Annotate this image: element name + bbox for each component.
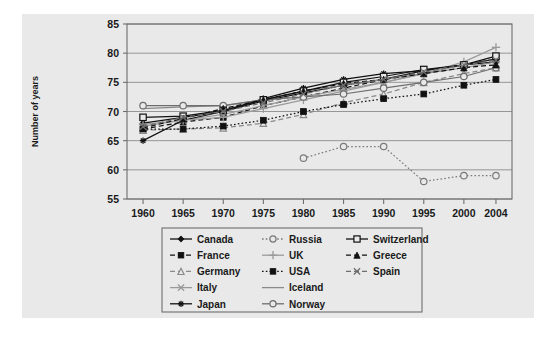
xtick-label-2000: 2000 bbox=[452, 207, 476, 219]
legend-label-usa: USA bbox=[289, 266, 310, 277]
legend-label-france: France bbox=[197, 250, 230, 261]
marker-filled-square bbox=[260, 117, 266, 123]
legend-label-japan: Japan bbox=[197, 299, 226, 310]
marker-filled-square bbox=[270, 269, 276, 275]
marker-filled-square bbox=[178, 252, 184, 258]
marker-open-square bbox=[140, 114, 146, 120]
marker-open-circle bbox=[340, 91, 346, 97]
marker-open-circle bbox=[340, 143, 346, 149]
marker-open-circle bbox=[140, 102, 146, 108]
legend-label-russia: Russia bbox=[289, 234, 322, 245]
legend-label-canada: Canada bbox=[197, 234, 234, 245]
ytick-label-80: 80 bbox=[107, 47, 119, 59]
xtick-label-1990: 1990 bbox=[372, 207, 396, 219]
ytick-label-60: 60 bbox=[107, 164, 119, 176]
legend-label-switzerland: Switzerland bbox=[373, 234, 429, 245]
chart-figure: 8580757065605519601965197019751980198519… bbox=[22, 14, 534, 318]
life-expectancy-line-chart: 8580757065605519601965197019751980198519… bbox=[22, 14, 534, 318]
xtick-label-1985: 1985 bbox=[332, 207, 356, 219]
marker-filled-square bbox=[461, 82, 467, 88]
ytick-label-55: 55 bbox=[107, 193, 119, 205]
ytick-label-85: 85 bbox=[107, 18, 119, 30]
marker-open-circle bbox=[380, 85, 386, 91]
xtick-label-1995: 1995 bbox=[412, 207, 436, 219]
marker-filled-square bbox=[220, 123, 226, 129]
xtick-label-1980: 1980 bbox=[292, 207, 316, 219]
xtick-label-1970: 1970 bbox=[212, 207, 236, 219]
legend-label-germany: Germany bbox=[197, 266, 241, 277]
marker-open-circle bbox=[421, 79, 427, 85]
marker-filled-square bbox=[180, 126, 186, 132]
ytick-label-65: 65 bbox=[107, 135, 119, 147]
xtick-label-2004: 2004 bbox=[484, 207, 508, 219]
marker-open-circle bbox=[493, 172, 499, 178]
legend-label-italy: Italy bbox=[197, 282, 217, 293]
y-axis-title: Number of years bbox=[30, 76, 40, 147]
marker-open-circle bbox=[270, 301, 276, 307]
marker-filled-square bbox=[301, 109, 307, 115]
marker-asterisk bbox=[178, 301, 184, 307]
legend-label-norway: Norway bbox=[289, 299, 326, 310]
ytick-label-70: 70 bbox=[107, 106, 119, 118]
marker-open-circle bbox=[270, 236, 276, 242]
legend-label-iceland: Iceland bbox=[289, 282, 323, 293]
marker-open-square bbox=[354, 236, 360, 242]
marker-filled-square bbox=[421, 91, 427, 97]
xtick-label-1960: 1960 bbox=[131, 207, 155, 219]
marker-open-circle bbox=[461, 73, 467, 79]
marker-filled-square bbox=[381, 96, 387, 102]
marker-open-circle bbox=[461, 172, 467, 178]
legend-label-greece: Greece bbox=[373, 250, 407, 261]
ytick-label-75: 75 bbox=[107, 76, 119, 88]
legend-label-spain: Spain bbox=[373, 266, 400, 277]
xtick-label-1975: 1975 bbox=[252, 207, 276, 219]
xtick-label-1965: 1965 bbox=[171, 207, 195, 219]
marker-open-circle bbox=[421, 178, 427, 184]
marker-open-circle bbox=[180, 102, 186, 108]
marker-open-circle bbox=[380, 143, 386, 149]
marker-filled-square bbox=[493, 77, 499, 83]
legend-label-uk: UK bbox=[289, 250, 304, 261]
marker-open-circle bbox=[300, 155, 306, 161]
marker-filled-square bbox=[341, 102, 347, 108]
